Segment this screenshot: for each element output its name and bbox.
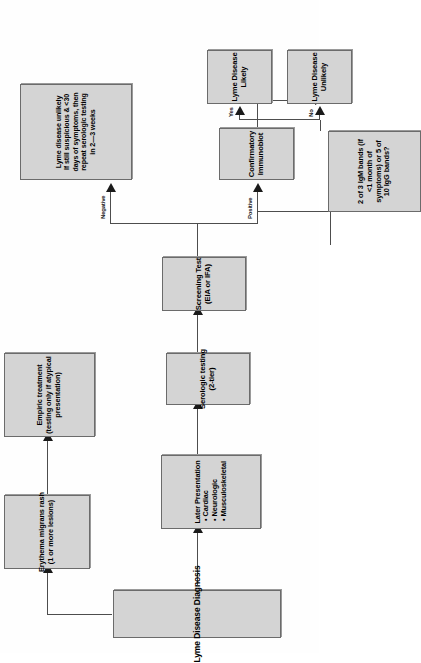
arrowhead-positive: [253, 183, 263, 192]
edge-label-yes: Yes: [228, 107, 234, 117]
node-lyme-disease-likely[interactable]: Lyme Disease Likely: [207, 50, 272, 104]
node-text: If still suspicious & <30: [63, 94, 71, 170]
edge-erythema-to-empiric: [47, 437, 48, 495]
edge-yes-no-bus: [239, 119, 320, 120]
node-bullet: • Musculoskeletal: [220, 461, 229, 525]
node-confirmatory-immunoblot[interactable]: Confirmatory Immunoblot: [219, 128, 294, 180]
edge-immunoblot-to-bands-stem: [257, 101, 258, 128]
edge-start-to-erythema: [47, 569, 48, 615]
node-text: Immunoblot: [257, 133, 266, 175]
edge-start-to-erythema-riser: [47, 614, 112, 615]
edge-screening-split-stem: [197, 224, 198, 257]
node-lyme-disease-unlikely[interactable]: Lyme Disease Unlikely: [287, 50, 352, 104]
edge-bands-to-bus: [320, 120, 321, 131]
node-text: (EIA or IFA): [204, 264, 213, 304]
node-lyme-disease-diagnosis[interactable]: Lyme Disease Diagnosis: [113, 590, 281, 638]
node-text: (1 or more lesions): [47, 500, 56, 564]
node-text: days of symptoms, then: [72, 93, 80, 172]
node-text: Lyme Disease Diagnosis: [192, 565, 202, 662]
node-text: Unlikely: [320, 63, 329, 91]
node-text: Lyme disease unlikely: [55, 96, 63, 169]
edge-serologic-to-screening: [197, 311, 198, 353]
arrowhead-negative: [106, 183, 116, 192]
edge-screening-split-bar: [110, 223, 257, 224]
edge-negative-branch: [110, 188, 111, 224]
arrowhead-yes-to-likely: [235, 106, 245, 115]
node-text: presentation): [54, 372, 63, 418]
edge-label-negative: Negative: [100, 196, 106, 219]
flowchart-rotated-group: Lyme Disease Diagnosis Erythema migrans …: [0, 0, 319, 653]
node-text: 10 IgG bands?: [383, 147, 392, 197]
flowchart-canvas: Lyme Disease Diagnosis Erythema migrans …: [0, 0, 319, 653]
edge-positive-branch: [257, 188, 258, 224]
edge-label-positive: Positive: [247, 198, 253, 219]
arrowhead-no-to-unlikely: [315, 106, 325, 115]
edge-bands-split-bar: [258, 211, 330, 212]
node-text: Likely: [240, 67, 249, 88]
edge-bands-split-stem: [330, 212, 331, 245]
node-screening-test[interactable]: Screening Test (EIA or IFA): [162, 257, 246, 311]
node-empiric-treatment[interactable]: Empiric treatment (testing only if atypi…: [4, 353, 95, 437]
node-erythema-migrans-rash[interactable]: Erythema migrans rash (1 or more lesions…: [4, 495, 90, 569]
node-text: in 2—3 weeks: [89, 109, 97, 154]
node-later-presentation[interactable]: Later Presentation • Cardiac • Neurologi…: [161, 455, 261, 529]
edge-later-presentation-to-serologic: [197, 405, 198, 455]
node-text: (2-tier): [208, 368, 217, 391]
node-serologic-testing[interactable]: Serologic testing (2-tier): [166, 353, 250, 405]
node-lyme-disease-unlikely-repeat-testing[interactable]: Lyme disease unlikely If still suspiciou…: [20, 84, 132, 180]
edge-label-no: No: [308, 109, 314, 117]
node-text: repeat serologic testing: [80, 93, 88, 171]
node-band-criteria-decision[interactable]: 2 of 3 IgM bands (if <1 month of symptom…: [328, 131, 421, 212]
